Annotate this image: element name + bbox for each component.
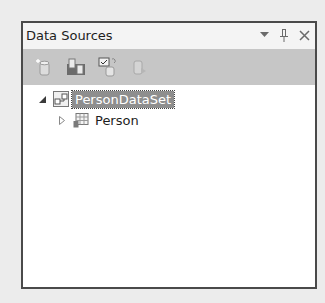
tree-node-label[interactable]: PersonDataSet — [72, 91, 174, 108]
edit-dataset-with-designer-button[interactable] — [65, 56, 87, 78]
add-new-data-source-button[interactable] — [33, 56, 55, 78]
database-add-icon — [36, 58, 52, 76]
panel-title-bar[interactable]: Data Sources — [23, 23, 315, 49]
auto-hide-pin-button[interactable] — [277, 27, 291, 43]
close-button[interactable] — [297, 27, 311, 43]
collapsed-triangle[interactable] — [57, 115, 67, 125]
collapsed-arrow-icon — [59, 116, 65, 125]
close-icon — [299, 30, 310, 41]
data-sources-panel: Data Sources — [21, 21, 317, 289]
dataset-icon — [53, 91, 69, 107]
tree-node-personDataSet[interactable]: PersonDataSet — [37, 89, 174, 109]
tree-node-label[interactable]: Person — [92, 112, 142, 129]
dataset-designer-icon — [66, 58, 86, 76]
database-refresh-icon — [132, 58, 148, 76]
dataset-wizard-icon — [98, 57, 118, 77]
expanded-triangle[interactable] — [37, 94, 47, 104]
expanded-arrow-icon — [39, 96, 46, 103]
tree-node-person[interactable]: Person — [57, 110, 142, 130]
chevron-down-icon — [260, 32, 269, 38]
data-sources-toolbar — [23, 49, 315, 85]
refresh-button[interactable] — [129, 56, 151, 78]
pin-icon — [279, 28, 289, 42]
configure-dataset-with-wizard-button[interactable] — [97, 56, 119, 78]
data-sources-tree[interactable]: PersonDataSet Person — [23, 85, 315, 287]
table-icon — [73, 112, 89, 128]
panel-title: Data Sources — [26, 28, 113, 43]
window-position-dropdown-button[interactable] — [257, 27, 271, 43]
